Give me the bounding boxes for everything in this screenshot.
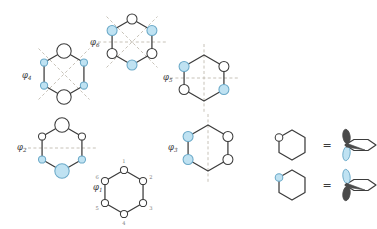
legend-orbital-top-lobe-dark [342,129,351,144]
lobe-top-white [55,118,69,132]
lobe-bottom-blue [55,164,69,178]
vertex-number-2: 2 [149,174,152,180]
label-subscript-phi4: 4 [27,75,32,81]
lobe-lower-right-blue [80,82,87,89]
orbital-phi6: φ6 [90,14,166,70]
figure-canvas: 123456φ1φ2φ3φ4φ5φ6== [0,0,377,229]
lobe-upper-right-white [139,177,146,184]
lobe-lower-left-white [101,199,108,206]
orbital-phi2: φ2 [17,118,96,178]
lobe-lower-left-white [107,49,117,59]
lobe-upper-left-blue [179,62,189,72]
orbital-phi1: 123456φ1 [93,158,153,226]
lobe-top-white [120,166,127,173]
label-phi3: φ3 [168,142,178,153]
legend-legend-blue-top: = [275,169,376,201]
vertex-number-5: 5 [95,205,98,211]
lobe-upper-left-blue [183,132,193,142]
label-subscript-phi3: 3 [174,147,178,153]
legend-equals-sign: = [322,139,331,152]
legend-equals-sign: = [322,179,331,192]
vertex-number-4: 4 [122,220,126,226]
vertex-number-3: 3 [149,205,152,211]
lobe-top-white [57,44,71,58]
legend-ring-circle-blue [275,174,283,182]
orbital-phi4: φ4 [22,44,90,104]
legend-orbital-bottom-lobe-blue [342,146,351,161]
lobe-lower-right-white [139,199,146,206]
benzene-mo-figure: 123456φ1φ2φ3φ4φ5φ6== [0,0,377,229]
label-phi5: φ5 [163,72,173,83]
label-subscript-phi2: 2 [22,147,27,153]
lobe-lower-right-blue [219,85,229,95]
lobe-upper-left-white [38,133,45,140]
lobe-upper-left-blue [40,59,47,66]
lobe-upper-right-white [223,132,233,142]
legend-orbital-top-lobe-blue [342,169,351,184]
label-subscript-phi6: 6 [96,42,100,48]
hexagon-ring [105,170,143,214]
vertex-number-6: 6 [95,174,98,180]
lobe-lower-left-blue [40,82,47,89]
lobe-top-white [127,14,137,24]
lobe-upper-right-white [78,133,85,140]
legend-hexagon [279,170,305,200]
lobe-bottom-white [57,90,71,104]
legend-orbital-bottom-lobe-dark [342,186,351,201]
lobe-lower-right-white [147,49,157,59]
legend-ring-circle-white [275,134,283,142]
lobe-lower-left-blue [38,156,45,163]
orbital-phi3: φ3 [168,114,233,182]
lobe-bottom-blue [127,60,137,70]
legend-hexagon [279,130,305,160]
vertex-number-1: 1 [122,158,125,164]
orbital-phi5: φ5 [163,44,238,112]
lobe-upper-right-blue [80,59,87,66]
label-phi1: φ1 [93,182,103,193]
lobe-lower-left-white [179,85,189,95]
label-subscript-phi1: 1 [99,187,103,193]
legend-legend-white-top: = [275,129,376,161]
label-phi6: φ6 [90,37,100,48]
label-phi4: φ4 [22,70,32,81]
lobe-lower-left-blue [183,155,193,165]
lobe-upper-right-white [219,62,229,72]
label-phi2: φ2 [17,142,27,153]
label-subscript-phi5: 5 [169,77,173,83]
lobe-upper-left-blue [107,26,117,36]
lobe-upper-left-white [101,177,108,184]
lobe-lower-right-blue [78,156,85,163]
lobe-upper-right-blue [147,26,157,36]
lobe-lower-right-white [223,155,233,165]
lobe-bottom-white [120,210,127,217]
